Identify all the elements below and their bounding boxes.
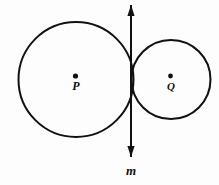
figure-background [0, 0, 219, 185]
label-p: P [72, 79, 80, 93]
geometry-diagram: P Q m [0, 0, 219, 185]
geometry-figure-canvas: P Q m [0, 0, 219, 185]
center-dot-q [168, 74, 173, 79]
label-m: m [126, 163, 136, 178]
label-q: Q [167, 80, 175, 92]
center-dot-p [73, 73, 78, 78]
